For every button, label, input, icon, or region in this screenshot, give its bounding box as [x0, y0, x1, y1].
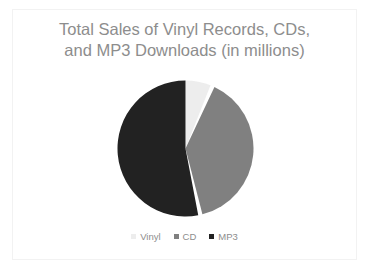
legend-item-mp3[interactable]: MP3: [209, 231, 238, 242]
chart-legend: Vinyl CD MP3: [0, 231, 369, 242]
legend-swatch-icon: [131, 234, 136, 239]
pie-slices: [118, 80, 254, 216]
legend-swatch-icon: [174, 234, 179, 239]
legend-item-vinyl[interactable]: Vinyl: [131, 231, 160, 242]
slide-canvas: Total Sales of Vinyl Records, CDs, and M…: [0, 0, 369, 270]
legend-label: MP3: [218, 231, 238, 242]
pie-chart-svg: [117, 80, 254, 217]
legend-item-cd[interactable]: CD: [174, 231, 197, 242]
legend-swatch-icon: [209, 234, 214, 239]
chart-title: Total Sales of Vinyl Records, CDs, and M…: [28, 19, 341, 61]
legend-label: Vinyl: [140, 231, 160, 242]
pie-chart: [117, 80, 254, 217]
legend-label: CD: [183, 231, 197, 242]
